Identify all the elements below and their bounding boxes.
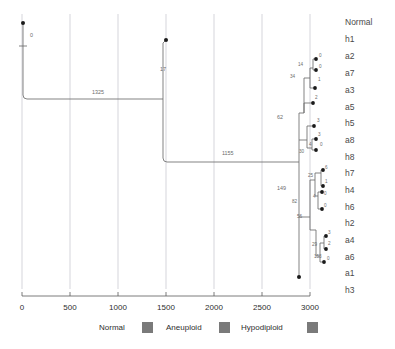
- gridlines: [22, 14, 310, 289]
- branch-length-labels: 0 1325 17 1155 149 62 82 56 34 14 0 0 1 …: [30, 32, 331, 261]
- branch-label: 0: [320, 142, 323, 147]
- node-normal: [21, 21, 25, 25]
- axis-tick-label: 2000: [205, 303, 223, 312]
- tip-labels: Normal h1 a2 a7 a3 a5 h5 a8 h8 h7 h4 h6 …: [345, 17, 373, 295]
- tip-label-h8: h8: [345, 152, 355, 162]
- branch-label: 25: [308, 173, 314, 178]
- branch-h4: [321, 173, 323, 186]
- tree-nodes: [21, 21, 328, 279]
- branch-34-up: [304, 78, 310, 113]
- figure-root: 0 1325 17 1155 149 62 82 56 34 14 0 0 1 …: [0, 0, 395, 349]
- branch-backbone-lower: [299, 162, 310, 217]
- phylogenetic-tree-figure: 0 1325 17 1155 149 62 82 56 34 14 0 0 1 …: [0, 0, 395, 349]
- branch-label: 4: [309, 142, 312, 147]
- node-a8: [314, 137, 318, 141]
- branch-label: 0: [30, 32, 33, 38]
- tip-label-a3: a3: [345, 85, 355, 95]
- branch-label: 0: [324, 191, 327, 196]
- axis-tick-label: 2500: [253, 303, 271, 312]
- branch-label: 56: [297, 214, 303, 219]
- axis-tick-label: 3000: [301, 303, 319, 312]
- legend-swatch-hypodiploid: [307, 322, 318, 333]
- tree-branches: [19, 23, 326, 277]
- branch-label: 3: [318, 132, 321, 137]
- tip-label-a2: a2: [345, 51, 355, 61]
- node-a5: [311, 101, 315, 105]
- branch-h7-node: [315, 173, 321, 180]
- branch-label: 3: [317, 118, 320, 123]
- branch-label: 17: [160, 66, 166, 72]
- node-a2: [314, 57, 318, 61]
- branch-label: 82: [292, 199, 298, 204]
- node-a7: [314, 68, 318, 72]
- node-a6: [324, 247, 328, 251]
- branch-label: 4: [313, 194, 316, 199]
- node-h8: [314, 148, 318, 152]
- node-h4: [321, 184, 325, 188]
- branch-label: 0: [324, 203, 327, 208]
- tip-label-h4: h4: [345, 185, 355, 195]
- tip-label-a8: a8: [345, 135, 355, 145]
- branch-label: 2: [328, 241, 331, 246]
- branch-label: 0: [319, 64, 322, 69]
- node-h1: [164, 38, 168, 42]
- branch-root: [23, 23, 163, 99]
- branch-label: 2: [315, 95, 318, 100]
- branch-label: 30: [299, 149, 305, 154]
- axis-tick-label: 0: [20, 303, 25, 312]
- node-h3: [297, 275, 301, 279]
- tip-label-h3: h3: [345, 285, 355, 295]
- tip-label-h2: h2: [345, 218, 355, 228]
- axis-tick-label: 1000: [109, 303, 127, 312]
- branch-label: 1: [318, 77, 321, 82]
- branch-label: 34: [290, 74, 296, 79]
- tip-label-h6: h6: [345, 202, 355, 212]
- branch-label: 3: [328, 230, 331, 235]
- branch-label: 1325: [92, 89, 104, 95]
- node-a1: [322, 260, 326, 264]
- branch-label: 0: [319, 53, 322, 58]
- tip-label-normal: Normal: [345, 17, 373, 27]
- legend: Normal Aneuploid Hypodiploid: [99, 322, 318, 333]
- tip-label-a7: a7: [345, 68, 355, 78]
- branch-h5: [307, 126, 314, 140]
- branch-label: 149: [277, 185, 286, 191]
- branch-label: 153: [314, 254, 322, 259]
- tip-label-h1: h1: [345, 34, 355, 44]
- tip-label-a4: a4: [345, 235, 355, 245]
- legend-label-aneuploid: Aneuploid: [166, 323, 202, 332]
- branch-label: 1: [325, 179, 328, 184]
- branch-14: [310, 68, 313, 78]
- axis-tick-label: 500: [63, 303, 77, 312]
- legend-swatch-aneuploid: [219, 322, 230, 333]
- branch-label: 62: [277, 114, 283, 120]
- legend-label-hypodiploid: Hypodiploid: [241, 323, 283, 332]
- branch-label: 1155: [222, 150, 234, 156]
- legend-swatch-normal: [142, 322, 153, 333]
- axis-tick-label: 1500: [157, 303, 175, 312]
- tip-label-a6: a6: [345, 252, 355, 262]
- tip-label-a5: a5: [345, 102, 355, 112]
- tip-label-h7: h7: [345, 168, 355, 178]
- tip-label-h5: h5: [345, 118, 355, 128]
- node-h5: [312, 124, 316, 128]
- branch-to-a5: [304, 103, 313, 113]
- branch-h2: [318, 196, 322, 209]
- legend-label-normal: Normal: [99, 323, 125, 332]
- tip-label-a1: a1: [345, 268, 355, 278]
- branch-label: 6: [325, 165, 328, 170]
- branch-label: 0: [327, 256, 330, 261]
- branch-label: 14: [298, 62, 304, 67]
- branch-56: [310, 217, 316, 230]
- x-axis: 0 500 1000 1500 2000 2500 3000: [20, 292, 320, 312]
- node-a3: [313, 86, 317, 90]
- branch-label: 29: [312, 242, 318, 247]
